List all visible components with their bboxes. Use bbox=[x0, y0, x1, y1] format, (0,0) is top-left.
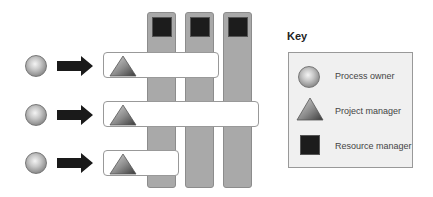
resource-column-2 bbox=[185, 12, 214, 188]
arrow-right-icon bbox=[57, 105, 93, 125]
resource-manager-square-icon bbox=[300, 135, 320, 155]
key-label-project-manager: Project manager bbox=[335, 106, 401, 116]
process-owner-circle-icon bbox=[25, 152, 47, 174]
key-title: Key bbox=[287, 30, 307, 42]
resource-column-3 bbox=[223, 12, 252, 188]
resource-manager-square-icon bbox=[228, 17, 248, 37]
resource-manager-square-icon bbox=[190, 17, 210, 37]
project-manager-triangle-icon bbox=[109, 55, 137, 77]
process-owner-circle-icon bbox=[298, 66, 320, 88]
arrow-right-icon bbox=[57, 56, 93, 76]
project-bar-1 bbox=[103, 52, 219, 78]
project-manager-triangle-icon bbox=[296, 97, 324, 121]
project-manager-triangle-icon bbox=[109, 153, 137, 175]
arrow-right-icon bbox=[57, 153, 93, 173]
key-legend: Process owner Project manager Resource m… bbox=[288, 52, 413, 168]
project-bar-2 bbox=[103, 101, 259, 127]
project-bar-3 bbox=[103, 150, 179, 176]
key-label-process-owner: Process owner bbox=[335, 71, 395, 81]
resource-manager-square-icon bbox=[152, 17, 172, 37]
key-label-resource-manager: Resource manager bbox=[335, 141, 412, 151]
process-owner-circle-icon bbox=[25, 55, 47, 77]
process-owner-circle-icon bbox=[25, 104, 47, 126]
project-manager-triangle-icon bbox=[109, 104, 137, 126]
